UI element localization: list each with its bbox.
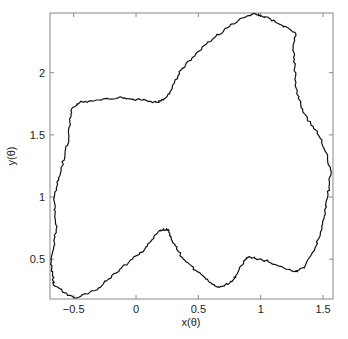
y-tick-label: 0.5 [30,253,45,265]
x-axis-label: x(θ) [182,316,201,328]
y-tick-label: 2 [39,67,45,79]
x-tick-label: −0.5 [63,303,85,315]
y-tick-label: 1 [39,191,45,203]
x-tick-label: 1.5 [315,303,330,315]
x-tick-label: 0.5 [191,303,206,315]
chart-plot: −0.500.511.5 0.511.52 x(θ) y(θ) [0,0,348,339]
y-axis-label: y(θ) [5,147,17,166]
axes-box [50,13,333,299]
y-tick-label: 1.5 [30,129,45,141]
x-tick-label: 0 [133,303,139,315]
x-tick-label: 1 [258,303,264,315]
